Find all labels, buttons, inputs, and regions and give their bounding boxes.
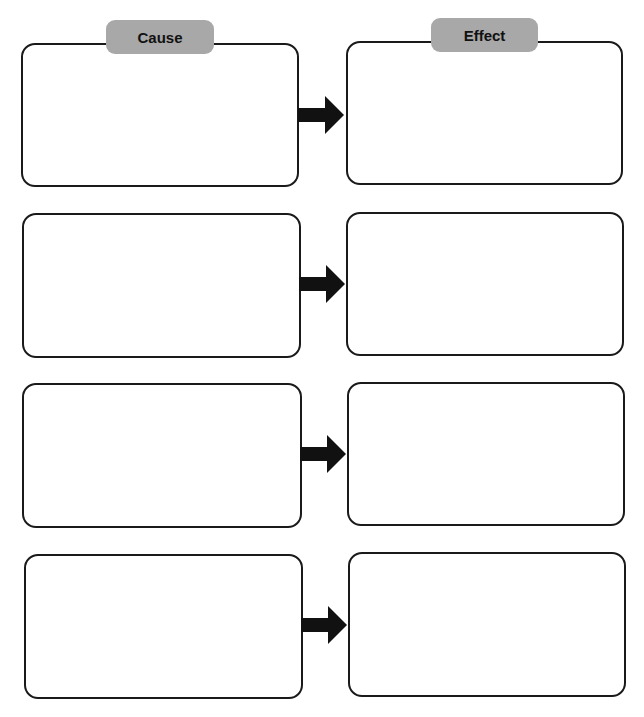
- arrow-right-icon: [301, 606, 349, 644]
- cause-box-1[interactable]: [21, 43, 299, 187]
- effect-box-2[interactable]: [346, 212, 624, 356]
- cause-box-3[interactable]: [22, 383, 302, 528]
- arrow-right-icon: [300, 435, 348, 473]
- effect-box-4[interactable]: [348, 552, 626, 697]
- arrow-right-icon: [299, 265, 347, 303]
- effect-header-tab: Effect: [431, 18, 538, 52]
- arrow-right-icon: [298, 96, 346, 134]
- cause-box-4[interactable]: [24, 554, 303, 699]
- effect-box-3[interactable]: [347, 382, 625, 526]
- effect-box-1[interactable]: [346, 41, 623, 185]
- cause-box-2[interactable]: [22, 213, 301, 358]
- cause-header-tab: Cause: [106, 20, 214, 54]
